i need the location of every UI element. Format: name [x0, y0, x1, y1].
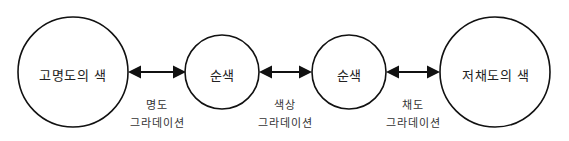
edge-label-saturation-line2: 그라데이션	[386, 115, 441, 133]
edge-label-hue-line2: 그라데이션	[258, 115, 313, 133]
edge-label-hue-line1: 색상	[258, 97, 313, 115]
node-label-pure-color-2: 순색	[337, 65, 362, 84]
edge-label-hue: 색상 그라데이션	[258, 97, 313, 133]
edge-label-saturation: 채도 그라데이션	[386, 97, 441, 133]
node-label-high-lightness: 고명도의 색	[39, 65, 106, 84]
edge-label-lightness-line1: 명도	[130, 97, 185, 115]
node-label-low-saturation: 저채도의 색	[462, 65, 529, 84]
edge-label-saturation-line1: 채도	[386, 97, 441, 115]
node-label-pure-color-1: 순색	[210, 65, 235, 84]
edge-label-lightness: 명도 그라데이션	[130, 97, 185, 133]
edge-label-lightness-line2: 그라데이션	[130, 115, 185, 133]
